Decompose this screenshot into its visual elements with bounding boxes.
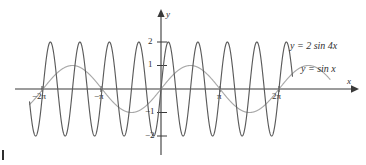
curve-label-2sin4x: y = 2 sin 4x [290,41,337,51]
x-axis-arrowhead [351,85,359,93]
x-tick-label-pi: π [217,92,222,101]
y-tick-label-2: 2 [148,37,153,46]
x-tick-label-neg2pi: −2π [32,92,46,101]
sine-graph-figure: −2π −π π 2π 2 1 −1 −2 y x y = 2 sin 4x y… [0,0,366,165]
y-tick-label-neg2: −2 [145,131,155,140]
page-corner-mark [2,150,4,160]
x-tick-label-negpi: −π [94,92,104,101]
y-axis-label: y [166,10,170,19]
y-tick-label-1: 1 [148,60,153,69]
y-tick-label-neg1: −1 [145,107,155,116]
plot-canvas [0,0,366,165]
x-axis-label: x [347,77,351,86]
y-axis-arrowhead [157,9,164,17]
curve-label-sinx: y = sin x [301,64,336,74]
x-tick-label-2pi: 2π [272,92,281,101]
